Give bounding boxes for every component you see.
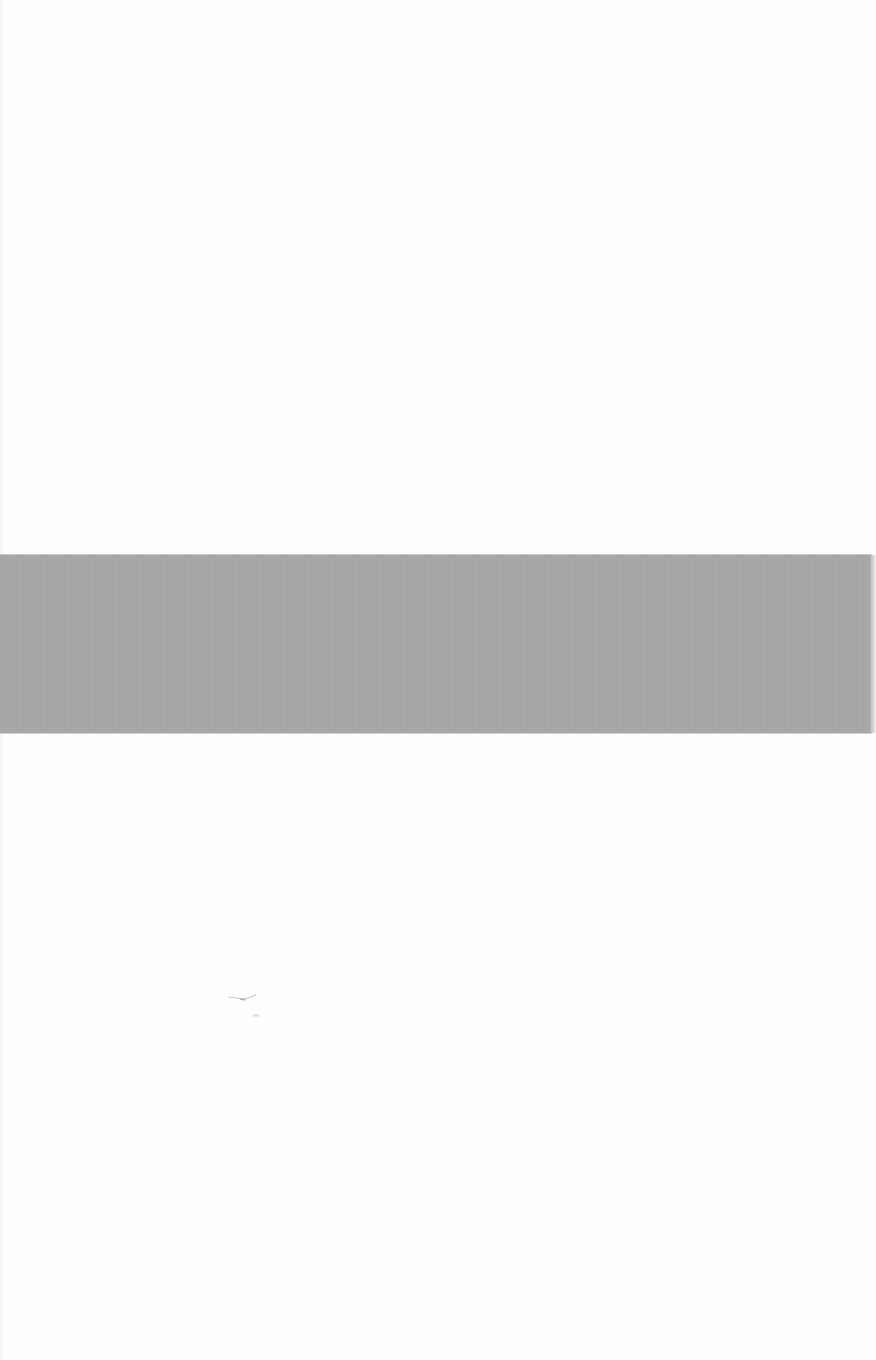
blank-page — [0, 0, 876, 1360]
band-edge-fade — [870, 555, 876, 733]
smudge-dot — [252, 1014, 260, 1017]
gray-horizontal-band — [0, 555, 872, 733]
smudge-mark-icon — [226, 994, 258, 1002]
